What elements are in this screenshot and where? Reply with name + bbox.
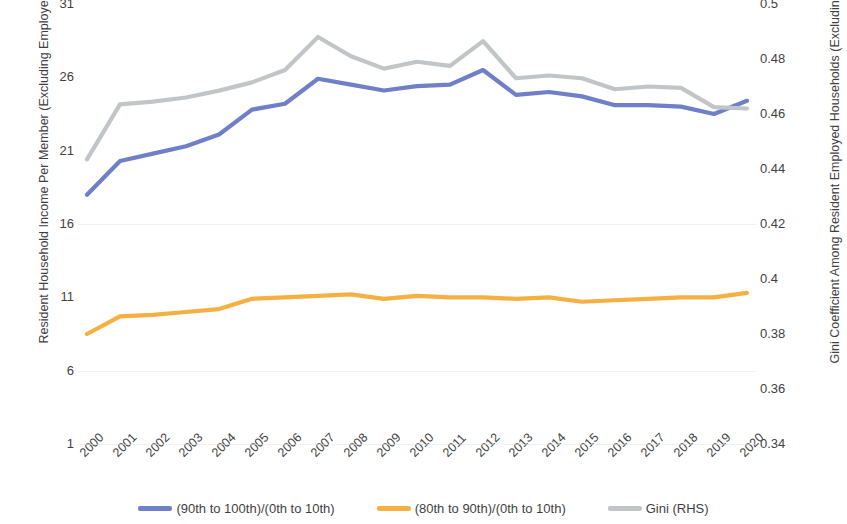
- x-axis-labels: 2000200120022003200420052006200720082009…: [78, 444, 756, 496]
- legend-label: (90th to 100th)/(0th to 10th): [176, 501, 334, 516]
- right-axis-title: Gini Coefficient Among Resident Employed…: [828, 64, 843, 364]
- right-tick-0.48: 0.48: [760, 52, 804, 66]
- right-tick-0.44: 0.44: [760, 162, 804, 176]
- right-tick-0.4: 0.4: [760, 272, 804, 286]
- left-tick-11: 11: [34, 290, 74, 304]
- left-tick-26: 26: [34, 70, 74, 84]
- right-tick-0.38: 0.38: [760, 327, 804, 341]
- legend-item[interactable]: Gini (RHS): [608, 501, 709, 516]
- legend-label: Gini (RHS): [646, 501, 709, 516]
- faint-gridline: [78, 371, 756, 372]
- series-line: [87, 293, 747, 334]
- faint-gridline: [78, 224, 756, 225]
- left-tick-31: 31: [34, 0, 74, 11]
- left-axis-ticks: 161116212631: [30, 0, 74, 450]
- legend-item[interactable]: (90th to 100th)/(0th to 10th): [138, 501, 334, 516]
- right-tick-0.36: 0.36: [760, 382, 804, 396]
- faint-gridline: [78, 444, 756, 445]
- legend-label: (80th to 90th)/(0th to 10th): [415, 501, 566, 516]
- series-line: [87, 37, 747, 159]
- income-inequality-line-chart: Resident Household Income Per Member (Ex…: [0, 0, 847, 524]
- right-axis-ticks: 0.340.360.380.40.420.440.460.480.5: [760, 0, 810, 450]
- right-tick-0.42: 0.42: [760, 217, 804, 231]
- legend-item[interactable]: (80th to 90th)/(0th to 10th): [377, 501, 566, 516]
- right-tick-0.46: 0.46: [760, 107, 804, 121]
- left-tick-21: 21: [34, 144, 74, 158]
- left-tick-1: 1: [34, 437, 74, 451]
- chart-legend: (90th to 100th)/(0th to 10th)(80th to 90…: [0, 497, 847, 519]
- right-tick-0.5: 0.5: [760, 0, 804, 11]
- left-tick-6: 6: [34, 364, 74, 378]
- legend-swatch-icon: [138, 506, 172, 511]
- series-line: [87, 70, 747, 195]
- left-tick-16: 16: [34, 217, 74, 231]
- legend-swatch-icon: [608, 506, 642, 511]
- legend-swatch-icon: [377, 506, 411, 511]
